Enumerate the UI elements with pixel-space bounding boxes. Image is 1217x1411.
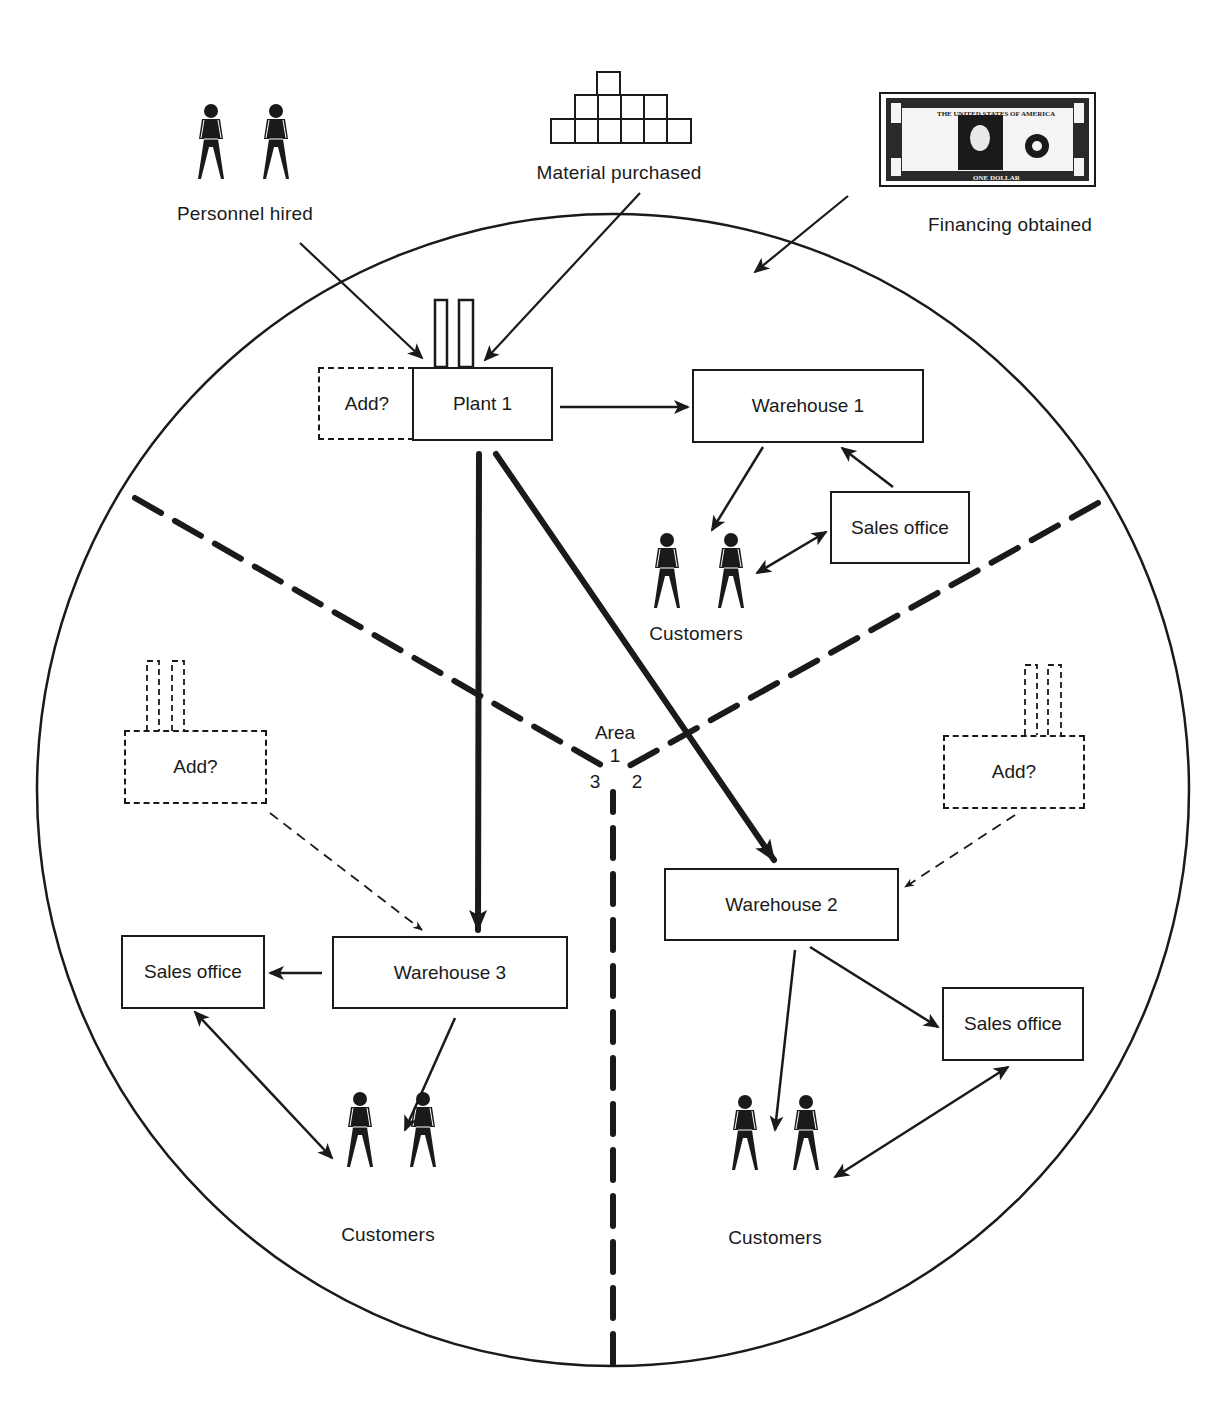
customers-area1-icon xyxy=(654,533,744,608)
customers1-label: Customers xyxy=(649,623,743,645)
plant1-smokestacks xyxy=(435,300,473,367)
customers-area2-icon xyxy=(732,1095,819,1170)
area3-label: 3 xyxy=(590,771,601,793)
input-arrows xyxy=(300,193,848,360)
warehouse1-label: Warehouse 1 xyxy=(752,395,864,417)
person-pair-icon xyxy=(198,104,289,179)
add-plant-area2-label: Add? xyxy=(992,761,1036,783)
add-plant-area3-smokestacks xyxy=(147,661,184,731)
plant1-box[interactable]: Plant 1 xyxy=(412,367,553,441)
area2-label: 2 xyxy=(632,771,643,793)
warehouse1-box[interactable]: Warehouse 1 xyxy=(692,369,924,443)
svg-text:ONE DOLLAR: ONE DOLLAR xyxy=(973,174,1021,182)
customers3-label: Customers xyxy=(341,1224,435,1246)
sales-office3-box[interactable]: Sales office xyxy=(121,935,265,1009)
area-title-label: Area xyxy=(595,722,635,744)
sales-office1-label: Sales office xyxy=(851,517,949,539)
add-plant-area3-box[interactable]: Add? xyxy=(124,730,267,804)
sales-office2-box[interactable]: Sales office xyxy=(942,987,1084,1061)
sales-office2-label: Sales office xyxy=(964,1013,1062,1035)
warehouse2-label: Warehouse 2 xyxy=(725,894,837,916)
customers-area3-icon xyxy=(347,1092,436,1167)
add-plant-adjacent-box[interactable]: Add? xyxy=(318,367,414,440)
sales-office1-box[interactable]: Sales office xyxy=(830,491,970,564)
financing-obtained-label: Financing obtained xyxy=(928,214,1092,236)
warehouse3-box[interactable]: Warehouse 3 xyxy=(332,936,568,1009)
material-purchased-label: Material purchased xyxy=(536,162,701,184)
dollar-bill-icon: THE UNITED STATES OF AMERICA ONE DOLLAR xyxy=(880,93,1095,186)
potential-supply-arrows xyxy=(270,813,1015,930)
customers2-label: Customers xyxy=(728,1227,822,1249)
plant1-label: Plant 1 xyxy=(453,393,512,415)
add-plant-area2-box[interactable]: Add? xyxy=(943,735,1085,809)
stacked-blocks-icon xyxy=(551,72,691,143)
area1-label: 1 xyxy=(610,745,621,767)
personnel-hired-label: Personnel hired xyxy=(177,203,313,225)
shipping-arrows xyxy=(478,454,774,930)
add-plant-area3-label: Add? xyxy=(173,756,217,778)
add-plant-area2-smokestacks xyxy=(1025,665,1061,735)
add-plant-adjacent-label: Add? xyxy=(345,393,389,415)
svg-text:THE UNITED STATES OF AMERICA: THE UNITED STATES OF AMERICA xyxy=(937,110,1055,118)
warehouse2-box[interactable]: Warehouse 2 xyxy=(664,868,899,941)
warehouse3-label: Warehouse 3 xyxy=(394,962,506,984)
sales-office3-label: Sales office xyxy=(144,961,242,983)
